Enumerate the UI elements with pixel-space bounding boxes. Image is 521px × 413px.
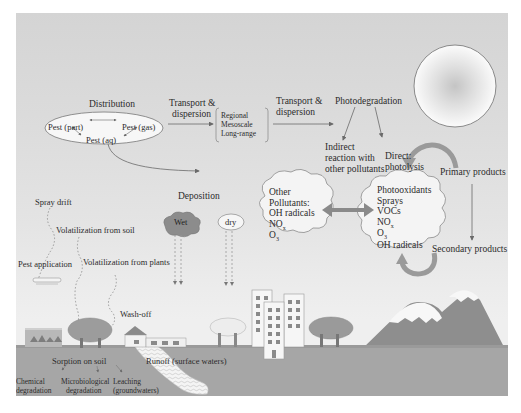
pest-aq-label: Pest (aq)	[86, 135, 116, 145]
cloud-oh-radicals: OH radicals	[269, 208, 315, 219]
tree-right	[309, 317, 353, 347]
volatilization-soil-label: Volatilization from soil	[56, 225, 135, 235]
direct-line-2: photolysis	[385, 162, 424, 173]
direct-line-1: Direct:	[385, 151, 424, 162]
house	[124, 326, 186, 347]
tree-left	[68, 318, 112, 348]
cloud-pollutants: Pollutants:	[269, 198, 315, 209]
cloud-photooxidants: Photooxidants	[377, 185, 431, 196]
microbio-line-2: degradation	[61, 386, 109, 395]
runoff-label: Runoff (surface waters)	[146, 356, 227, 366]
indirect-line-1: Indirect	[325, 142, 384, 153]
other-pollutants-text: Other Pollutants: OH radicals NOx O3	[269, 187, 315, 244]
cloud-oh-radicals-2: OH radicals	[377, 240, 431, 251]
leaching-label: Leaching (groundwaters)	[113, 377, 159, 395]
direct-photolysis-label: Direct: photolysis	[385, 151, 424, 173]
sorption-label: Sorption on soil	[52, 356, 106, 366]
deposition-label: Deposition	[178, 191, 220, 202]
scale-list: Regional Mesoscale Long-range	[221, 111, 256, 138]
deposition-arrow	[108, 144, 199, 171]
cloud-o3: O3	[269, 230, 315, 244]
dry-label: dry	[225, 217, 236, 227]
transport-line-1: Transport &	[169, 98, 215, 109]
pest-part-label: Pest (part)	[48, 122, 83, 132]
spray-plane-icon	[33, 278, 61, 284]
pest-gas-label: Pest (gas)	[122, 122, 155, 132]
volatilization-plants-label: Volatilization from plants	[83, 257, 170, 267]
chemical-line-1: Chemical	[16, 377, 51, 386]
indirect-line-3: other pollutants	[325, 164, 384, 175]
cloud-other: Other	[269, 187, 315, 198]
indirect-reaction-label: Indirect reaction with other pollutants	[325, 142, 384, 175]
secondary-products-label: Secondary products	[432, 244, 507, 255]
leaching-line-1: Leaching	[113, 377, 159, 386]
photooxidants-text: Photooxidants Sprays VOCs NOx O3 OH radi…	[377, 185, 431, 251]
distribution-label: Distribution	[89, 99, 135, 110]
indirect-line-2: reaction with	[325, 153, 384, 164]
chemical-line-2: degradation	[16, 386, 51, 395]
tree-middle	[210, 318, 246, 347]
farm-field	[25, 328, 62, 347]
microbio-line-1: Microbiological	[61, 377, 109, 386]
exchange-double-arrow	[322, 203, 374, 217]
scale-regional: Regional	[221, 111, 256, 120]
sun-icon	[414, 45, 496, 127]
microbiological-degradation-label: Microbiological degradation	[61, 377, 109, 395]
transport-label-2: Transport & dispersion	[276, 96, 322, 118]
cloud-sprays: Sprays	[377, 196, 431, 207]
primary-products-label: Primary products	[440, 167, 506, 178]
spray-drift-label: Spray drift	[35, 197, 72, 207]
scale-long-range: Long-range	[221, 129, 256, 138]
pest-application-label: Pest application	[18, 259, 72, 269]
diagram-panel: Distribution Pest (part) Pest (gas) Pest…	[16, 13, 508, 396]
wash-off-label: Wash-off	[120, 309, 151, 319]
mountains	[362, 290, 505, 349]
wet-label: Wet	[174, 217, 187, 227]
chemical-degradation-label: Chemical degradation	[16, 377, 51, 395]
diagram-canvas	[16, 13, 508, 396]
scale-mesoscale: Mesoscale	[221, 120, 256, 129]
cloud-vocs: VOCs	[377, 206, 431, 217]
leaching-line-2: (groundwaters)	[113, 386, 159, 395]
transport-label-1: Transport & dispersion	[169, 98, 215, 120]
transport2-line-2: dispersion	[276, 107, 322, 118]
photodegradation-label: Photodegradation	[335, 96, 402, 107]
transport-line-2: dispersion	[169, 109, 215, 120]
transport2-line-1: Transport &	[276, 96, 322, 107]
